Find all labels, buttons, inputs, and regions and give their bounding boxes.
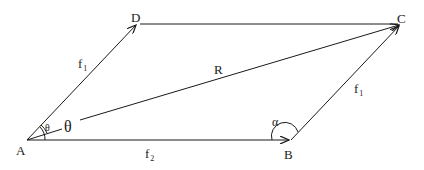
label-point-C: C	[397, 11, 406, 26]
label-angle-theta-large: θ	[64, 118, 72, 135]
vector-resultant-R	[80, 25, 399, 120]
label-angle-alpha: α	[272, 115, 279, 129]
label-f2-AB: f2	[145, 146, 154, 163]
vector-f1-AD	[27, 25, 136, 140]
parallelogram-diagram: D C A B f1 R f1 f2 θ θ α	[0, 0, 424, 170]
label-point-B: B	[284, 147, 293, 162]
label-point-D: D	[131, 10, 140, 25]
label-f1-AD: f1	[78, 56, 87, 73]
label-f1-BC: f1	[354, 81, 363, 98]
vector-f1-BC	[291, 26, 399, 140]
label-angle-theta-small: θ	[45, 122, 50, 133]
label-point-A: A	[16, 143, 26, 158]
label-resultant-R: R	[214, 62, 223, 77]
